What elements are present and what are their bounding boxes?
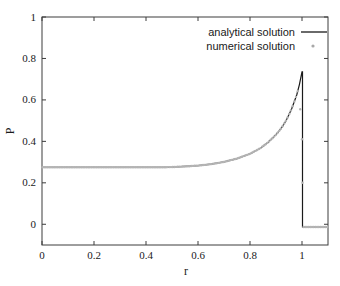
numerical-dot xyxy=(293,100,295,102)
numerical-dot xyxy=(275,134,277,136)
numerical-dot xyxy=(281,125,283,127)
y-tick-label: 1 xyxy=(31,11,37,23)
y-tick-label: 0.4 xyxy=(22,135,36,147)
y-tick-label: 0.8 xyxy=(22,52,36,64)
numerical-solution-dots xyxy=(41,90,328,228)
y-tick-label: 0 xyxy=(31,218,37,230)
x-tick-label: 0.6 xyxy=(191,249,205,261)
numerical-dot xyxy=(291,105,293,107)
x-tick-label: 0 xyxy=(39,249,45,261)
analytical-solution-line xyxy=(42,72,328,227)
numerical-dot xyxy=(290,109,292,111)
numerical-dot xyxy=(288,113,290,115)
y-tick-label: 0.6 xyxy=(22,93,36,105)
numerical-dot xyxy=(301,182,303,184)
numerical-dot xyxy=(326,226,328,228)
numerical-dot xyxy=(276,132,278,134)
x-tick-label: 0.4 xyxy=(139,249,153,261)
pressure-profile-figure: 00.20.40.60.8100.20.40.60.81 r P analyti… xyxy=(0,0,340,286)
numerical-dot xyxy=(297,90,299,92)
x-tick-label: 0.2 xyxy=(87,249,101,261)
legend-label-numerical: numerical solution xyxy=(206,40,295,52)
legend-dot-sample xyxy=(311,44,314,47)
legend-label-analytical: analytical solution xyxy=(208,26,295,38)
x-axis-label: r xyxy=(184,264,188,278)
numerical-dot xyxy=(299,108,301,110)
numerical-dot xyxy=(286,116,288,118)
numerical-dot xyxy=(301,138,303,140)
numerical-dot xyxy=(285,120,287,122)
y-axis-label: P xyxy=(3,127,17,134)
y-tick-label: 0.2 xyxy=(22,176,36,188)
chart-canvas: 00.20.40.60.8100.20.40.60.81 r P analyti… xyxy=(0,0,340,286)
x-tick-label: 0.8 xyxy=(243,249,257,261)
numerical-dot xyxy=(278,130,280,132)
numerical-dot xyxy=(280,128,282,130)
legend: analytical solution numerical solution xyxy=(206,26,327,52)
numerical-dot xyxy=(283,122,285,124)
numerical-dot xyxy=(295,96,297,98)
x-tick-label: 1 xyxy=(299,249,305,261)
